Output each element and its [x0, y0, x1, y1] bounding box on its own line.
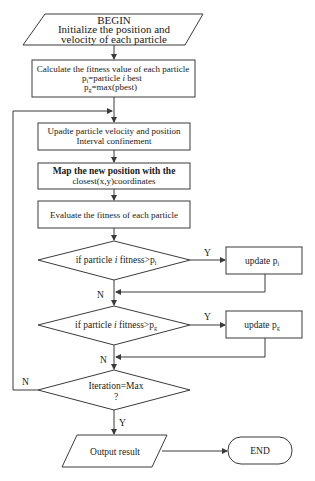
arrow-update-pi-merge: [116, 274, 265, 292]
decision-pg-node: if particle i fitness>pg: [38, 306, 190, 345]
label-pi-yes: Y: [204, 248, 211, 258]
map-position-line1: Map the new position with the: [53, 166, 176, 176]
label-pg-yes: Y: [204, 312, 211, 322]
begin-line3: velocity of each particle: [61, 33, 167, 45]
update-velocity-line1: Upadte particle velocity and position: [48, 126, 181, 136]
arrow-update-pg-merge: [116, 338, 265, 357]
calc-fitness-node: Calculate the fitness value of each part…: [32, 60, 195, 97]
svg-text:velocity of each particle: velocity of each particle: [61, 33, 167, 45]
label-pi-no: N: [97, 290, 104, 300]
begin-node: BEGIN Initialize the position and veloci…: [23, 14, 203, 45]
decision-iteration-node: Iteration=Max ?: [38, 370, 190, 410]
end-node: END: [228, 437, 292, 464]
decision-iteration-line2: ?: [114, 392, 118, 402]
map-position-line2: closest(x,y)coordinates: [72, 176, 156, 186]
evaluate-node: Evaluate the fitness of each particle: [38, 201, 190, 228]
label-iter-no: N: [22, 377, 29, 387]
label-pg-no: N: [100, 355, 107, 365]
end-label: END: [250, 446, 270, 456]
update-pi-node: update pi: [226, 247, 302, 274]
decision-pi-node: if particle i fitness>pi: [38, 241, 190, 280]
update-pi-label: update pi: [245, 256, 279, 267]
label-iter-yes: Y: [119, 418, 126, 428]
evaluate-label: Evaluate the fitness of each particle: [50, 210, 178, 220]
update-pg-label: update pg: [244, 320, 279, 331]
map-position-node: Map the new position with the closest(x,…: [38, 163, 190, 189]
update-velocity-node: Upadte particle velocity and position In…: [38, 123, 190, 150]
update-pg-node: update pg: [226, 311, 302, 338]
output-label: Output result: [90, 447, 140, 457]
decision-pg-label: if particle i fitness>pg: [75, 320, 157, 331]
decision-pi-label: if particle i fitness>pi: [76, 255, 157, 266]
decision-iteration-line1: Iteration=Max: [89, 381, 144, 391]
pso-flowchart: BEGIN Initialize the position and veloci…: [0, 0, 315, 481]
update-velocity-line2: Interval confinement: [76, 136, 152, 146]
output-node: Output result: [62, 435, 167, 467]
calc-fitness-line3: pg=max(pbest): [84, 82, 137, 93]
